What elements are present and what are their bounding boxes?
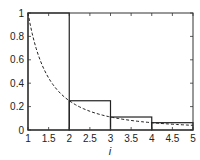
x-tick-label: 2.5	[83, 133, 97, 144]
step-bars-series	[28, 13, 193, 130]
y-tick-label: 1	[18, 8, 24, 19]
x-tick-label: 4.5	[165, 133, 179, 144]
x-tick-label: 4	[149, 133, 155, 144]
x-tick-label: 3.5	[124, 133, 138, 144]
y-tick-label: 0	[18, 125, 24, 136]
y-tick-label: 0.8	[10, 31, 24, 42]
x-tick-label: 3	[108, 133, 114, 144]
y-tick-label: 0.2	[10, 101, 24, 112]
bar-1	[28, 13, 69, 130]
y-tick-label: 0.6	[10, 54, 24, 65]
x-tick-label: 2	[66, 133, 72, 144]
chart-canvas: 11.522.533.544.55 00.20.40.60.81 i	[0, 0, 200, 160]
y-tick-label: 0.4	[10, 78, 24, 89]
x-tick-label: 1.5	[42, 133, 56, 144]
y-axis-ticks: 00.20.40.60.81	[10, 8, 193, 136]
x-axis-label: i	[109, 145, 112, 157]
x-tick-label: 1	[25, 133, 31, 144]
x-tick-label: 5	[190, 133, 196, 144]
